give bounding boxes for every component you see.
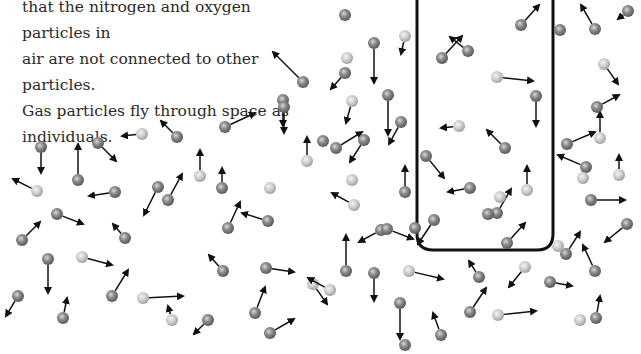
nitrogen-particle [591,95,619,113]
nitrogen-particle [209,255,229,277]
particle-sphere-icon [594,132,606,144]
particle-sphere-icon [219,121,231,133]
velocity-arrow-icon [430,161,444,178]
particle-sphere-icon [561,138,573,150]
particle-sphere-icon [519,261,531,273]
particle-sphere-icon [399,186,411,198]
oxygen-particle [441,120,465,132]
oxygen-particle [613,155,625,181]
velocity-arrow-icon [504,311,536,314]
nitrogen-particle [194,314,214,334]
velocity-arrow-icon [63,216,83,224]
nitrogen-particle [581,5,601,35]
velocity-arrow-icon [122,135,136,136]
particle-sphere-icon [109,186,121,198]
nitrogen-particle [340,235,352,277]
velocity-arrow-icon [511,223,525,239]
particle-sphere-icon [473,271,485,283]
velocity-arrow-icon [115,270,128,291]
nitrogen-particle [216,168,228,194]
velocity-arrow-icon [331,78,341,89]
nitrogen-particle [106,270,128,302]
oxygen-particle [594,112,606,144]
nitrogen-particle [561,132,595,150]
velocity-arrow-icon [569,232,580,249]
velocity-arrow-icon [161,121,173,133]
oxygen-particle [521,166,533,196]
velocity-arrow-icon [89,193,109,196]
particle-sphere-icon [598,58,610,70]
particle-sphere-icon [554,24,566,36]
particle-sphere-icon [162,194,174,206]
velocity-arrow-icon [401,42,404,54]
particle-sphere-icon [339,9,351,21]
particle-sphere-icon [262,215,274,227]
oxygen-particle [399,30,411,54]
particle-sphere-icon [278,101,290,113]
particle-sphere-icon [92,137,104,149]
nitrogen-particle [273,52,309,88]
oxygen-particle [509,261,531,287]
particle-sphere-icon [521,184,533,196]
velocity-arrow-icon [144,192,155,215]
nitrogen-particle [6,290,24,316]
particle-sphere-icon [589,265,601,277]
particle-sphere-icon [395,116,407,128]
oxygen-particle [552,240,564,252]
nitrogen-particle [530,90,542,126]
nitrogen-particle [92,137,116,161]
particle-sphere-icon [171,131,183,143]
nitrogen-particle [420,150,444,178]
particle-sphere-icon [399,339,411,351]
particle-sphere-icon [106,290,118,302]
velocity-arrow-icon [469,261,476,272]
particle-sphere-icon [464,182,476,194]
nitrogen-particle [399,166,411,198]
nitrogen-particle [249,287,265,319]
oxygen-particle [346,174,358,186]
velocity-arrow-icon [441,127,453,128]
velocity-arrow-icon [573,132,595,142]
nitrogen-particle [436,36,462,64]
nitrogen-particle [418,214,440,244]
particle-sphere-icon [621,218,633,230]
velocity-arrow-icon [242,213,262,219]
particle-sphere-icon [341,52,353,64]
particle-sphere-icon [76,251,88,263]
nitrogen-particle [278,101,290,133]
nitrogen-particle [618,5,634,19]
velocity-arrow-icon [605,228,622,242]
nitrogen-particle [382,89,394,135]
particle-sphere-icon [585,194,597,206]
oxygen-particle [491,71,533,83]
nitrogen-particle [501,223,525,249]
nitrogen-particle [585,194,625,206]
nitrogen-particle [219,113,255,133]
particle-sphere-icon [249,307,261,319]
particles-group [6,5,634,351]
nitrogen-particle [89,186,121,198]
particle-sphere-icon [591,101,603,113]
particle-sphere-icon [399,30,411,42]
velocity-arrow-icon [346,107,350,123]
nitrogen-particle [16,222,40,246]
particle-sphere-icon [324,284,336,296]
velocity-arrow-icon [257,287,265,307]
velocity-arrow-icon [171,174,182,195]
oxygen-particle [307,278,327,304]
nitrogen-particle [399,339,411,351]
oxygen-particle [598,58,618,84]
particle-sphere-icon [31,185,43,197]
particle-sphere-icon [436,52,448,64]
velocity-arrow-icon [13,179,32,188]
oxygen-particle [492,309,536,321]
particle-sphere-icon [166,314,178,326]
particle-sphere-icon [382,89,394,101]
particle-sphere-icon [301,155,313,167]
oxygen-particle [403,265,443,279]
nitrogen-particle [368,37,380,83]
velocity-arrow-icon [350,145,361,162]
particle-sphere-icon [51,208,63,220]
particle-sphere-icon [136,128,148,140]
nitrogen-particle [389,116,407,144]
